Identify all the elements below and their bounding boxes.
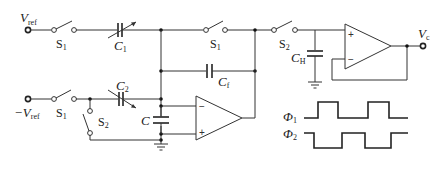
svg-text:C1: C1 bbox=[114, 38, 127, 54]
svg-text:+: + bbox=[348, 29, 354, 40]
capacitor-ch: CH bbox=[291, 30, 323, 88]
clock-phi2: Φ2 bbox=[283, 126, 408, 148]
capacitor-cf: Cf bbox=[207, 64, 230, 90]
neg-vref-terminal: −Vref bbox=[14, 96, 40, 121]
svg-text:S2: S2 bbox=[98, 115, 109, 130]
capacitor-c: C bbox=[141, 106, 170, 134]
switch-s1-top-mid: S1 bbox=[204, 21, 228, 52]
svg-text:+: + bbox=[199, 127, 205, 138]
capacitor-c1: C1 bbox=[108, 22, 136, 54]
svg-text:Cf: Cf bbox=[218, 74, 230, 90]
capacitor-c2: C2 bbox=[108, 78, 136, 108]
svg-text:−: − bbox=[348, 54, 354, 65]
ground-icon bbox=[154, 144, 168, 150]
switch-s2-top-right: S2 bbox=[272, 21, 298, 52]
svg-text:S1: S1 bbox=[210, 37, 221, 52]
svg-text:−: − bbox=[199, 101, 205, 112]
svg-text:S1: S1 bbox=[56, 106, 67, 121]
svg-text:S2: S2 bbox=[279, 37, 290, 52]
switch-s2-bottom: S2 bbox=[83, 109, 109, 136]
switch-s1-bottom: S1 bbox=[52, 90, 77, 121]
svg-text:S1: S1 bbox=[56, 37, 67, 52]
clock-phi1: Φ1 bbox=[283, 102, 408, 125]
switch-s1-top-left: S1 bbox=[52, 21, 77, 52]
svg-text:Φ1: Φ1 bbox=[283, 109, 297, 125]
opamp-integrator: − + bbox=[196, 96, 242, 140]
svg-text:CH: CH bbox=[291, 50, 306, 66]
output-terminal: Vc bbox=[418, 26, 430, 49]
svg-text:C: C bbox=[141, 113, 150, 128]
svg-text:C2: C2 bbox=[116, 78, 129, 94]
vref-label: Vref bbox=[20, 10, 37, 27]
svg-text:−Vref: −Vref bbox=[14, 105, 40, 121]
svg-text:Vc: Vc bbox=[418, 26, 430, 42]
vref-terminal: Vref bbox=[20, 10, 37, 33]
opamp-buffer: + − bbox=[345, 24, 391, 69]
circuit-diagram: Vref S1 C1 S1 S2 bbox=[0, 0, 440, 169]
svg-text:Φ2: Φ2 bbox=[283, 126, 297, 142]
